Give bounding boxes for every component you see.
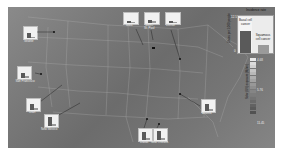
city-label-dallas: Dallas [140, 141, 148, 144]
incidence-legend: Basal cell cancer Squamous cell cancer [237, 15, 274, 54]
city-box-san-francisco [17, 66, 32, 80]
city-label-new-orleans: New Orleans [151, 141, 168, 144]
city-dot-new-orleans [158, 123, 160, 125]
city-dot-detroit [179, 58, 181, 60]
city-label-atlanta: Atlanta [202, 112, 211, 115]
legend-squamous-bar [258, 45, 269, 53]
city-label-new-mexico: New Mexico [41, 128, 57, 131]
legend-y-axis-label: Cases per 1,000 people [227, 13, 231, 43]
city-label-iowa: Iowa [126, 24, 132, 27]
bar-squamous [25, 76, 29, 78]
city-dot-atlanta [179, 93, 181, 95]
uv-tick-top: 4.68 [257, 58, 263, 62]
city-label-minn-st-paul: Minn./ St. Paul [144, 24, 155, 31]
city-dot-minn-st-paul [152, 47, 155, 49]
city-dot-san-francisco [40, 73, 42, 75]
city-label-detroit: Detroit [166, 24, 175, 27]
city-label-san-francisco: San Francisco [14, 80, 36, 83]
legend-y-min: 0 [234, 49, 236, 53]
uv-scale-axis-label: Solar (UV) exposure (Mj/m²) [245, 64, 249, 99]
us-map: Seattle Iowa Minn./ St. Paul Detroit [8, 7, 275, 148]
legend-title: Incidence rate [246, 8, 266, 12]
legend-y-max: 12.5 [231, 15, 237, 19]
legend-squamous-label: Squamous cell cancer [254, 33, 272, 41]
city-box-new-mexico [44, 114, 59, 128]
uv-tick-mid: 5.76 [257, 88, 263, 92]
uv-color-scale [250, 58, 256, 114]
uv-tick-bottom: 11.45 [257, 121, 264, 125]
city-dot-dallas [146, 118, 148, 120]
legend-basal-bar [240, 31, 251, 53]
city-label-utah: Utah [29, 111, 35, 114]
bar-squamous [52, 124, 56, 126]
city-dot-seattle [53, 31, 55, 33]
legend-basal-label: Basal cell cancer [239, 18, 252, 26]
